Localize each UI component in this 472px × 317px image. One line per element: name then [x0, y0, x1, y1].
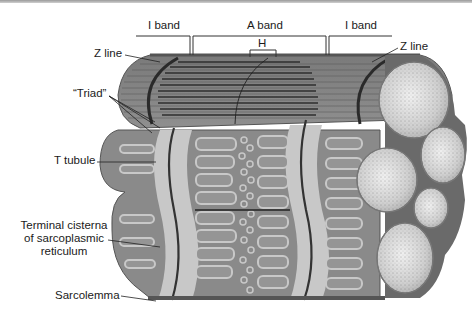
i-band-left-label: I band — [148, 19, 180, 32]
t-tubule-label: T tubule — [54, 154, 95, 167]
h-zone-label: H — [258, 37, 266, 50]
triad-label: “Triad” — [73, 87, 106, 100]
terminal-cisterna-label: Terminal cisterna of sarcoplasmic reticu… — [18, 219, 110, 258]
terminal-cisterna-line2: of sarcoplasmic — [18, 232, 110, 245]
terminal-cisterna-line1: Terminal cisterna — [18, 219, 110, 232]
lower-myofibrils — [100, 120, 385, 300]
z-line-left-label: Z line — [94, 47, 122, 60]
terminal-cisterna-line3: reticulum — [18, 245, 110, 258]
sarcolemma-label: Sarcolemma — [55, 289, 120, 302]
a-band-label: A band — [247, 19, 283, 32]
i-band-right-label: I band — [345, 19, 377, 32]
z-line-right-label: Z line — [400, 40, 428, 53]
